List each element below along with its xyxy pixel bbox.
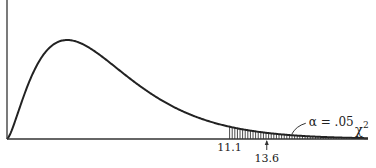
observed-value-label: 13.6 xyxy=(255,152,280,165)
x-axis-label-base: χ xyxy=(355,122,363,137)
critical-value-label: 11.1 xyxy=(217,141,242,154)
x-axis-label: χ2 xyxy=(355,120,369,137)
alpha-label: α = .05 xyxy=(309,115,354,129)
alpha-pointer xyxy=(292,123,306,134)
observed-arrowhead-icon xyxy=(265,140,269,145)
chi-square-chart: 11.1 13.6 α = .05 χ2 xyxy=(0,0,376,168)
x-axis-label-superscript: 2 xyxy=(363,120,369,130)
